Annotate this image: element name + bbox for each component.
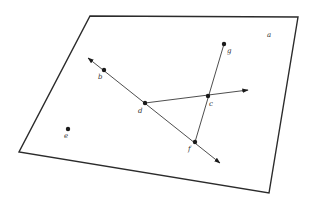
point-label-g: g <box>227 47 232 55</box>
point-e <box>66 127 70 131</box>
plane-a <box>19 16 298 193</box>
point-c <box>206 94 210 98</box>
point-label-c: c <box>209 100 213 108</box>
point-d <box>143 101 147 105</box>
point-f <box>193 140 197 144</box>
point-label-b: b <box>98 73 103 81</box>
point-g <box>222 42 226 46</box>
geometry-diagram: a bcdefg <box>0 0 309 202</box>
plane-label-a: a <box>267 31 271 39</box>
point-b <box>102 68 106 72</box>
point-label-e: e <box>64 132 68 140</box>
point-label-d: d <box>138 107 143 115</box>
